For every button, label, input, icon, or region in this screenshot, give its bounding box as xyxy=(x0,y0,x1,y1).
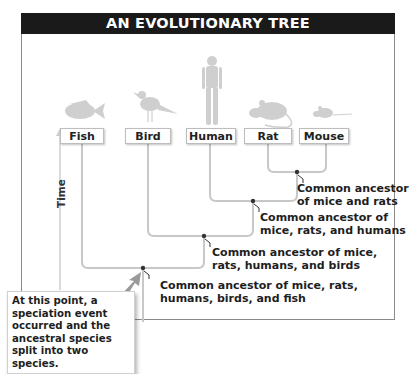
node-label-mice-rats: Common ancestor of mice and rats xyxy=(297,182,409,208)
species-label-bird: Bird xyxy=(125,128,171,144)
species-label-human: Human xyxy=(186,128,236,144)
species-label-mouse: Mouse xyxy=(299,128,349,144)
rat-icon xyxy=(249,100,292,127)
node-label-line: rats, humans, and birds xyxy=(212,259,377,272)
speciation-callout: At this point, a speciation event occurr… xyxy=(7,291,135,374)
node-label-line: Common ancestor of xyxy=(260,211,406,224)
node-label-line: Common ancestor of mice, xyxy=(212,246,377,259)
time-axis-label: Time xyxy=(55,179,67,208)
node-label-line: mice, rats, and humans xyxy=(260,224,406,237)
node-label-all-species: Common ancestor of mice, rats, humans, b… xyxy=(160,279,358,305)
time-axis-arrow xyxy=(56,128,64,290)
node-label-mice-rats-humans: Common ancestor of mice, rats, and human… xyxy=(260,211,406,237)
mouse-icon xyxy=(313,106,352,118)
node-label-line: humans, birds, and fish xyxy=(160,292,358,305)
bird-icon xyxy=(133,91,178,122)
fish-icon xyxy=(65,100,105,119)
species-label-rat: Rat xyxy=(244,128,292,144)
node-label-line: Common ancestor of mice, rats, xyxy=(160,279,358,292)
human-icon xyxy=(202,56,222,125)
node-label-mice-rats-humans-birds: Common ancestor of mice, rats, humans, a… xyxy=(212,246,377,272)
node-label-line: of mice and rats xyxy=(297,195,409,208)
node-label-line: Common ancestor xyxy=(297,182,409,195)
species-label-fish: Fish xyxy=(60,128,104,144)
